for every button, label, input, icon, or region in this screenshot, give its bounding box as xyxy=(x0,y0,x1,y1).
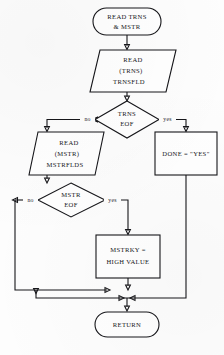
edge-label-mstr-no: no xyxy=(27,197,33,203)
node-mstrky[interactable]: MSTRKY = HIGH VALUE xyxy=(96,235,160,278)
edge-lower-rail-left xyxy=(36,290,127,298)
read-mstr-line-2: (MSTR) xyxy=(55,150,79,158)
start-line-2: & MSTR xyxy=(114,23,141,30)
read-trns-line-2: (TRNS) xyxy=(119,67,142,75)
read-trns-line-1: READ xyxy=(123,56,142,63)
trns-eof-line-1: TRNS xyxy=(118,110,136,117)
mstrky-line-2: HIGH VALUE xyxy=(106,258,149,265)
trns-eof-line-2: EOF xyxy=(120,120,134,127)
mstrky-rect-shape xyxy=(96,235,160,278)
edge-mstr-no xyxy=(15,200,107,290)
read-mstr-line-3: MSTRFLDS xyxy=(47,161,84,168)
read-trns-line-3: TRNSFLD xyxy=(113,78,145,85)
done-yes-line-1: DONE = "YES" xyxy=(162,150,209,157)
node-read-trns[interactable]: READ (TRNS) TRNSFLD xyxy=(90,50,176,92)
flowchart-canvas: READ TRNS & MSTR READ (TRNS) TRNSFLD TRN… xyxy=(0,0,224,355)
return-label: RETURN xyxy=(113,321,141,328)
mstrky-line-1: MSTRKY = xyxy=(110,246,145,253)
node-trns-eof[interactable]: TRNS EOF xyxy=(95,101,159,138)
edge-label-trns-yes: yes xyxy=(163,116,172,122)
node-read-mstr[interactable]: READ (MSTR) MSTRFLDS xyxy=(29,132,104,175)
node-done-yes[interactable]: DONE = "YES" xyxy=(155,132,217,175)
node-start[interactable]: READ TRNS & MSTR xyxy=(93,8,161,35)
node-mstr-eof[interactable]: MSTR EOF xyxy=(38,183,105,217)
flowchart-svg: READ TRNS & MSTR READ (TRNS) TRNSFLD TRN… xyxy=(0,0,224,355)
mstr-eof-line-1: MSTR xyxy=(61,191,81,198)
read-mstr-line-1: READ xyxy=(59,139,78,146)
edge-label-mstr-yes: yes xyxy=(108,197,117,203)
edge-label-trns-no: no xyxy=(84,116,90,122)
node-return[interactable]: RETURN xyxy=(95,312,159,337)
start-line-1: READ TRNS xyxy=(107,13,146,20)
mstr-eof-line-2: EOF xyxy=(64,201,78,208)
